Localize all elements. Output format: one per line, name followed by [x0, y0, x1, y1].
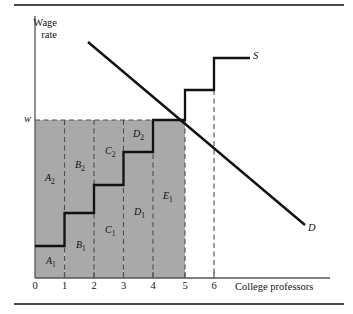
x-tick-label-6: 6: [207, 280, 221, 291]
region-label-A1: A1: [46, 255, 56, 269]
y-axis-label-line2: rate: [41, 29, 57, 40]
region-label-B1: B1: [76, 239, 86, 253]
region-label-C1: C1: [105, 224, 115, 238]
economics-figure: Wage rate w 0 1 2 3 4 5 6 College profes…: [0, 0, 353, 314]
region-label-E1: E1: [163, 190, 173, 204]
y-axis-label-line1: Wage: [33, 17, 57, 28]
demand-curve-label: D: [308, 222, 316, 233]
region-label-A2: A2: [45, 172, 55, 186]
x-tick-label-0: 0: [28, 280, 42, 291]
y-tick-label-w: w: [24, 113, 31, 124]
x-tick-label-5: 5: [178, 280, 192, 291]
x-tick-label-2: 2: [87, 280, 101, 291]
region-label-B2: B2: [75, 159, 85, 173]
x-tick-label-4: 4: [146, 280, 160, 291]
x-axis-label: College professors: [235, 281, 313, 293]
supply-curve-label: S: [253, 50, 258, 61]
region-label-C2: C2: [105, 145, 115, 159]
x-tick-label-1: 1: [58, 280, 72, 291]
y-axis-label: Wage rate: [17, 17, 57, 40]
x-tick-label-3: 3: [117, 280, 131, 291]
region-label-D1: D1: [134, 206, 145, 220]
region-label-D2: D2: [133, 128, 144, 142]
